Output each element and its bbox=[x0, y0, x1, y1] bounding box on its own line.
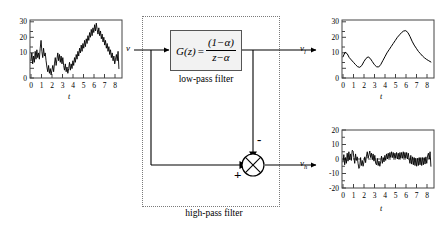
fraction-numerator: (1−α) bbox=[206, 37, 236, 49]
svg-text:10: 10 bbox=[332, 140, 340, 149]
lowpass-filter-block[interactable]: G(z)=(1−α)z−α bbox=[170, 30, 242, 71]
svg-text:20: 20 bbox=[332, 33, 340, 42]
diagram-canvas: 0 10 20 30 0 1 2 3 bbox=[0, 0, 443, 233]
transfer-function-fraction: (1−α)z−α bbox=[206, 37, 236, 63]
svg-text:3: 3 bbox=[373, 191, 377, 200]
svg-text:2: 2 bbox=[362, 191, 366, 200]
svg-text:10: 10 bbox=[332, 48, 340, 57]
highpass-output-plot: -20 -10 0 10 20 0 1 2 3 bbox=[316, 126, 440, 206]
summing-junction bbox=[242, 154, 264, 176]
x-axis-label: t bbox=[380, 204, 382, 213]
lowpass-output-label: vl bbox=[300, 43, 306, 55]
svg-text:1: 1 bbox=[352, 191, 356, 200]
x-ticks bbox=[343, 74, 427, 78]
svg-text:6: 6 bbox=[404, 191, 408, 200]
lowpass-filter-caption: low-pass filter bbox=[160, 74, 252, 84]
y-tick-labels: -20 -10 0 10 20 bbox=[329, 126, 339, 193]
svg-text:5: 5 bbox=[394, 191, 398, 200]
svg-text:0: 0 bbox=[341, 81, 345, 90]
lowpass-output-chart: 0 10 20 30 0 1 2 3 4 bbox=[316, 16, 440, 94]
svg-text:0: 0 bbox=[335, 155, 339, 164]
series-line-lowpass bbox=[343, 31, 431, 68]
y-tick-labels: 0 10 20 30 bbox=[332, 17, 340, 82]
highpass-output-chart: -20 -10 0 10 20 0 1 2 3 bbox=[316, 126, 440, 206]
y-ticks bbox=[342, 22, 346, 78]
svg-text:30: 30 bbox=[332, 17, 340, 26]
svg-text:-10: -10 bbox=[329, 169, 339, 178]
equals-sign: = bbox=[196, 45, 206, 57]
lowpass-output-plot: 0 10 20 30 0 1 2 3 4 bbox=[316, 16, 440, 94]
transfer-function-name: G(z) bbox=[176, 45, 196, 57]
svg-text:-20: -20 bbox=[329, 184, 339, 193]
svg-text:6: 6 bbox=[404, 81, 408, 90]
x-tick-labels: 0 1 2 3 4 5 6 7 8 bbox=[341, 81, 429, 90]
plus-sign-label: + bbox=[234, 168, 241, 181]
svg-text:8: 8 bbox=[425, 191, 429, 200]
x-ticks bbox=[343, 184, 427, 188]
input-signal-label: v bbox=[126, 43, 130, 53]
svg-text:7: 7 bbox=[415, 81, 419, 90]
x-axis-label: t bbox=[380, 92, 382, 101]
svg-text:4: 4 bbox=[383, 81, 387, 90]
fraction-denominator: z−α bbox=[210, 52, 231, 64]
transfer-function: G(z)=(1−α)z−α bbox=[171, 31, 241, 70]
svg-text:1: 1 bbox=[352, 81, 356, 90]
svg-text:0: 0 bbox=[341, 191, 345, 200]
svg-text:3: 3 bbox=[373, 81, 377, 90]
svg-text:0: 0 bbox=[335, 74, 339, 83]
x-tick-labels: 0 1 2 3 4 5 6 7 8 bbox=[341, 191, 429, 200]
svg-text:20: 20 bbox=[332, 126, 340, 135]
highpass-output-label: vh bbox=[300, 158, 307, 170]
svg-text:7: 7 bbox=[415, 191, 419, 200]
series-line-highpass bbox=[343, 150, 431, 168]
plot-frame bbox=[342, 20, 434, 78]
minus-sign-label: - bbox=[257, 133, 261, 146]
svg-text:5: 5 bbox=[394, 81, 398, 90]
svg-text:8: 8 bbox=[425, 81, 429, 90]
svg-text:2: 2 bbox=[362, 81, 366, 90]
svg-text:4: 4 bbox=[383, 191, 387, 200]
